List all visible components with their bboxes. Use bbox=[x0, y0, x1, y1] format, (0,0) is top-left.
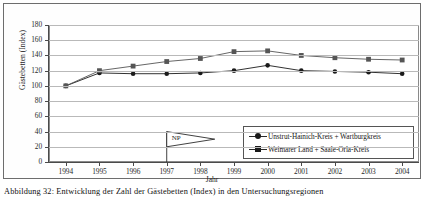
data-point bbox=[131, 71, 136, 76]
y-tick-mark bbox=[45, 132, 49, 133]
y-tick-mark bbox=[45, 40, 49, 41]
data-point bbox=[131, 64, 136, 69]
data-point bbox=[198, 56, 203, 61]
y-tick-label: 20 bbox=[16, 143, 42, 150]
y-tick-label: 120 bbox=[16, 67, 42, 74]
y-tick-label: 0 bbox=[16, 158, 42, 165]
y-tick-label: 80 bbox=[16, 97, 42, 104]
y-tick-mark bbox=[45, 162, 49, 163]
y-tick-mark bbox=[45, 101, 49, 102]
x-tick-mark bbox=[301, 162, 302, 166]
legend-square-marker-icon bbox=[248, 144, 268, 155]
x-tick-label: 2004 bbox=[382, 168, 422, 176]
y-tick-mark bbox=[45, 147, 49, 148]
y-tick-label: 180 bbox=[16, 21, 42, 28]
y-tick-mark bbox=[45, 116, 49, 117]
gridline bbox=[49, 71, 419, 72]
y-tick-mark bbox=[45, 25, 49, 26]
y-tick-label: 140 bbox=[16, 51, 42, 58]
data-point bbox=[232, 49, 237, 54]
chart-legend: Unstrut-Hainich-Kreis + Wartburgkreis We… bbox=[243, 126, 414, 159]
y-tick-mark bbox=[45, 55, 49, 56]
x-tick-mark bbox=[167, 162, 168, 166]
data-point bbox=[400, 71, 405, 76]
data-point bbox=[400, 58, 405, 63]
gridline bbox=[49, 101, 419, 102]
x-tick-mark bbox=[99, 162, 100, 166]
gridline bbox=[49, 40, 419, 41]
x-tick-mark bbox=[268, 162, 269, 166]
y-tick-label: 60 bbox=[16, 112, 42, 119]
gridline bbox=[49, 147, 419, 148]
y-tick-label: 160 bbox=[16, 36, 42, 43]
figure-caption: Abbildung 32: Entwicklung der Zahl der G… bbox=[4, 187, 426, 196]
gridline bbox=[49, 86, 419, 87]
legend-label-series-0: Unstrut-Hainich-Kreis + Wartburgkreis bbox=[268, 132, 381, 141]
data-point bbox=[265, 63, 270, 68]
y-tick-label: 100 bbox=[16, 82, 42, 89]
data-point bbox=[164, 71, 169, 76]
y-tick-mark bbox=[45, 86, 49, 87]
data-point bbox=[164, 59, 169, 64]
gridline bbox=[49, 116, 419, 117]
x-tick-mark bbox=[402, 162, 403, 166]
gridline bbox=[49, 55, 419, 56]
np-annotation-label: NP bbox=[172, 135, 181, 142]
x-tick-mark bbox=[200, 162, 201, 166]
legend-item-weimarer-land: Weimarer Land + Saale-Orla-Kreis bbox=[248, 143, 409, 156]
x-tick-mark bbox=[369, 162, 370, 166]
y-tick-mark bbox=[45, 71, 49, 72]
data-point bbox=[366, 57, 371, 62]
x-tick-mark bbox=[335, 162, 336, 166]
x-axis-title: Jahr bbox=[4, 176, 420, 184]
data-point bbox=[265, 48, 270, 53]
x-tick-mark bbox=[234, 162, 235, 166]
figure-frame: Gästebetten (Index) Jahr NP Unstrut-Hain… bbox=[3, 3, 421, 179]
gridline bbox=[49, 132, 419, 133]
gridline bbox=[49, 25, 419, 26]
x-tick-mark bbox=[66, 162, 67, 166]
x-tick-mark bbox=[133, 162, 134, 166]
y-tick-label: 40 bbox=[16, 128, 42, 135]
data-point bbox=[333, 55, 338, 60]
